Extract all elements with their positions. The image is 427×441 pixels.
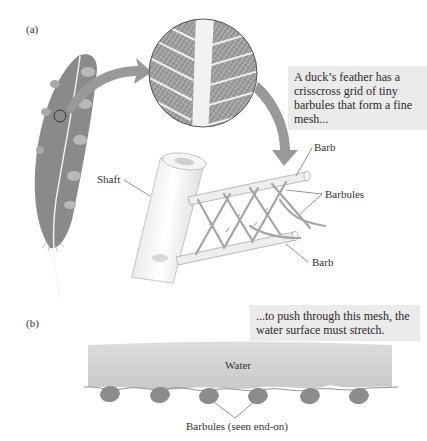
water-diagram bbox=[84, 342, 398, 419]
water-label: Water bbox=[225, 359, 251, 371]
barb-top-label: Barb bbox=[314, 141, 335, 153]
panel-b-callout: ...to push through this mesh, the water … bbox=[250, 305, 420, 341]
panel-a-label: (a) bbox=[26, 23, 38, 35]
magnified-view bbox=[140, 10, 270, 140]
shaft-illustration bbox=[132, 150, 208, 285]
barbules-end-on-label: Barbules (seen end-on) bbox=[186, 420, 288, 432]
panel-b-label: (b) bbox=[26, 317, 39, 329]
shaft-label: Shaft bbox=[97, 173, 120, 185]
barb-bottom-label: Barb bbox=[312, 256, 333, 268]
barbules-label: Barbules bbox=[325, 188, 364, 200]
panel-a-callout: A duck’s feather has a crisscross grid o… bbox=[288, 66, 427, 130]
